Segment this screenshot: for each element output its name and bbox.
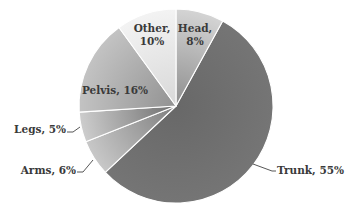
label-other-line2: 10% <box>140 35 165 47</box>
pie-chart: Head, 8% Other, 10% Pelvis, 16% Legs, 5%… <box>0 0 354 217</box>
label-head-line2: 8% <box>186 35 203 47</box>
label-pelvis: Pelvis, 16% <box>82 84 148 96</box>
leader-line-legs <box>67 127 80 132</box>
label-trunk: Trunk, 55% <box>277 164 344 176</box>
label-other-line1: Other, <box>134 22 171 34</box>
pie-chart-svg: Head, 8% Other, 10% Pelvis, 16% Legs, 5%… <box>0 0 354 217</box>
label-head-line1: Head, <box>178 22 212 34</box>
label-arms: Arms, 6% <box>20 164 76 176</box>
leader-line-trunk <box>253 164 276 171</box>
label-legs: Legs, 5% <box>14 123 66 135</box>
leader-line-arms <box>77 160 93 172</box>
